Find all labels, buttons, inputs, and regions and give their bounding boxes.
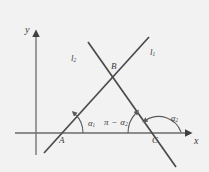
point-label-C: C — [152, 136, 158, 145]
point-label-B: B — [111, 62, 117, 71]
line-label-l1: l1 — [150, 48, 155, 57]
line-label-l2: l2 — [71, 54, 76, 63]
angle-label-pi-minus-alpha2: π − α2 — [104, 118, 128, 127]
y-axis-label: y — [25, 25, 29, 35]
x-axis-label: x — [194, 136, 198, 146]
point-label-A: A — [59, 136, 65, 145]
line-l2 — [88, 42, 176, 167]
geometry-figure — [0, 0, 209, 172]
angle-label-alpha1: α1 — [88, 119, 95, 128]
angle-arc-pi-minus-alpha2 — [128, 113, 136, 133]
angle-label-alpha2: α2 — [171, 114, 178, 123]
